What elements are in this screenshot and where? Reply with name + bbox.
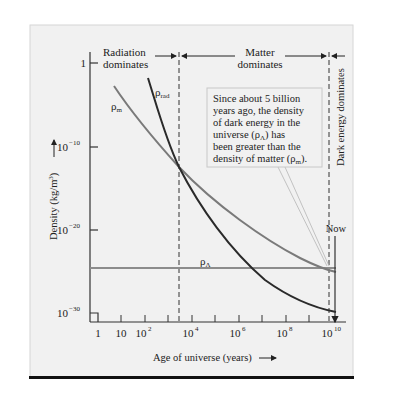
svg-text:10: 10 — [230, 327, 242, 339]
svg-text:Dark energy dominates: Dark energy dominates — [335, 68, 346, 166]
svg-text:−10: −10 — [69, 139, 80, 147]
svg-text:years ago, the density: years ago, the density — [213, 105, 305, 116]
svg-text:Matter: Matter — [245, 46, 275, 58]
svg-text:10: 10 — [57, 307, 69, 319]
svg-text:10: 10 — [183, 327, 195, 339]
y-axis-title: Density (kg/m3) — [47, 172, 60, 240]
svg-text:dominates: dominates — [237, 58, 282, 70]
svg-text:10: 10 — [116, 327, 128, 339]
svg-text:6: 6 — [242, 325, 246, 333]
svg-text:2: 2 — [148, 325, 152, 333]
svg-text:10: 10 — [136, 327, 148, 339]
svg-text:Density (kg/m3): Density (kg/m3) — [47, 172, 60, 240]
svg-text:dominates: dominates — [103, 58, 148, 70]
svg-text:10: 10 — [57, 141, 69, 153]
svg-text:10: 10 — [277, 327, 289, 339]
svg-text:−20: −20 — [69, 222, 80, 230]
svg-text:10: 10 — [322, 327, 334, 339]
density-chart: 1 10 −10 10 −20 10 −30 1 10 10 2 10 4 10… — [0, 0, 394, 408]
svg-text:−30: −30 — [69, 305, 80, 313]
bottom-bar — [29, 376, 354, 379]
svg-text:Radiation: Radiation — [103, 46, 146, 58]
now-label: Now — [326, 223, 347, 234]
chart-frame — [30, 25, 353, 378]
x-axis-title: Age of universe (years) — [153, 352, 252, 364]
svg-text:been greater than the: been greater than the — [213, 141, 301, 152]
svg-text:10: 10 — [334, 325, 342, 333]
svg-text:4: 4 — [195, 325, 199, 333]
svg-text:1: 1 — [95, 327, 101, 339]
dark-energy-label: Dark energy dominates — [335, 68, 346, 166]
svg-text:8: 8 — [289, 325, 293, 333]
svg-text:1: 1 — [81, 57, 87, 69]
svg-text:of dark energy in the: of dark energy in the — [213, 117, 301, 128]
svg-text:Since about 5 billion: Since about 5 billion — [213, 93, 301, 104]
